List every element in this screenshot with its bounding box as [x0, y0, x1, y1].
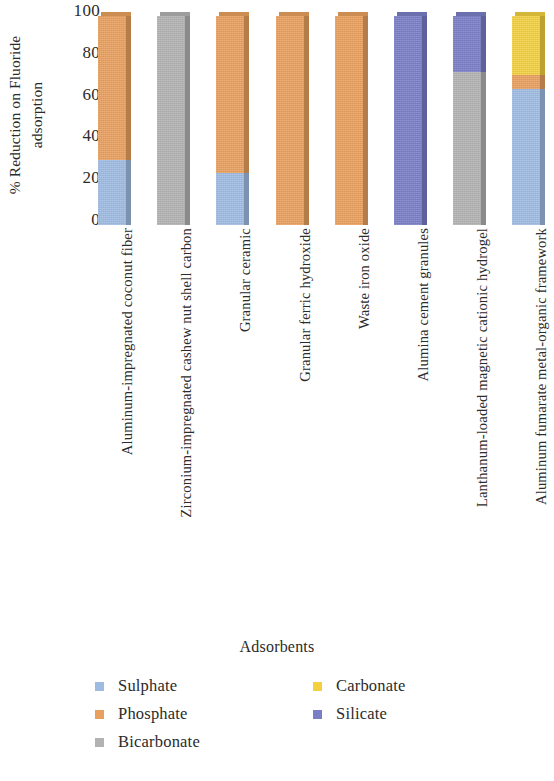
- legend-column-left: SulphatePhosphateBicarbonate: [95, 672, 200, 756]
- bar-segment-carbonate[interactable]: [512, 16, 540, 75]
- bar-segment-side-face: [244, 16, 249, 173]
- y-axis-title: % Reduction on Fluoride adsorption: [0, 0, 52, 230]
- bar-segment-side-face: [422, 16, 427, 225]
- bar-segment-phosphate[interactable]: [98, 16, 126, 160]
- bar-segment-side-face: [540, 89, 545, 225]
- bar-column[interactable]: [157, 16, 185, 225]
- y-axis-tick-20: 20: [60, 169, 100, 186]
- legend-item[interactable]: Carbonate: [313, 672, 406, 700]
- x-axis-category-label: Aluminum fumarate metal-organic framewor…: [534, 228, 549, 505]
- legend-label: Silicate: [336, 706, 387, 723]
- bar-segment-side-face: [185, 16, 190, 225]
- legend-swatch-phosphate: [95, 710, 104, 719]
- y-axis-title-line-2: adsorption: [26, 36, 48, 195]
- bar-segment-side-face: [481, 16, 486, 72]
- y-axis-tick-100: 100: [60, 2, 100, 19]
- x-axis-category-label: Granular ferric hydroxide: [298, 228, 313, 382]
- legend-item[interactable]: Phosphate: [95, 700, 200, 728]
- bar-column[interactable]: [216, 16, 244, 225]
- legend-label: Phosphate: [118, 706, 188, 723]
- bar-segment-side-face: [540, 75, 545, 90]
- bar-segment-phosphate[interactable]: [335, 16, 363, 225]
- x-axis-category-labels: Aluminum-impregnated coconut fiberZircon…: [52, 228, 554, 628]
- x-axis-category-label: Waste iron oxide: [357, 228, 372, 329]
- y-axis-tick-0: 0: [60, 211, 100, 228]
- y-axis-tick-80: 80: [60, 43, 100, 60]
- x-axis-category-label: Granular ceramic: [238, 228, 253, 332]
- plot-area: 020406080100: [52, 10, 554, 225]
- bar-segment-side-face: [304, 16, 309, 225]
- legend-swatch-silicate: [313, 710, 322, 719]
- bar-column[interactable]: [453, 16, 481, 225]
- x-axis-title: Adsorbents: [0, 638, 554, 656]
- x-axis-category-label: Alumina cement granules: [416, 228, 431, 381]
- chart-legend: SulphatePhosphateBicarbonate CarbonateSi…: [95, 672, 525, 777]
- bar-segment-side-face: [244, 173, 249, 225]
- bar-segment-side-face: [363, 16, 368, 225]
- bar-column[interactable]: [512, 16, 540, 225]
- legend-swatch-carbonate: [313, 682, 322, 691]
- bar-segment-side-face: [540, 16, 545, 75]
- y-axis-tick-60: 60: [60, 85, 100, 102]
- x-axis-category-label: Aluminum-impregnated coconut fiber: [120, 228, 135, 455]
- bar-segment-silicate[interactable]: [394, 16, 422, 225]
- bar-column[interactable]: [335, 16, 363, 225]
- x-axis-category-label: Zirconium-impregnated cashew nut shell c…: [179, 228, 194, 518]
- bar-column[interactable]: [394, 16, 422, 225]
- legend-label: Carbonate: [336, 678, 406, 695]
- y-axis-title-line-1: % Reduction on Fluoride: [4, 36, 26, 195]
- bar-segment-phosphate[interactable]: [512, 75, 540, 90]
- bar-segment-side-face: [481, 72, 486, 225]
- legend-label: Sulphate: [118, 678, 177, 695]
- legend-item[interactable]: Bicarbonate: [95, 728, 200, 756]
- bar-column[interactable]: [98, 16, 126, 225]
- bar-segment-bicarbonate[interactable]: [157, 16, 185, 225]
- bar-segment-side-face: [126, 16, 131, 160]
- legend-label: Bicarbonate: [118, 734, 200, 751]
- bar-segment-phosphate[interactable]: [276, 16, 304, 225]
- x-axis-category-label: Lanthanum-loaded magnetic cationic hydro…: [475, 228, 490, 507]
- bar-segment-sulphate[interactable]: [512, 89, 540, 225]
- bar-segment-sulphate[interactable]: [98, 160, 126, 225]
- bar-segment-phosphate[interactable]: [216, 16, 244, 173]
- bar-segment-side-face: [126, 160, 131, 225]
- legend-swatch-sulphate: [95, 682, 104, 691]
- legend-swatch-bicarbonate: [95, 738, 104, 747]
- legend-item[interactable]: Silicate: [313, 700, 406, 728]
- y-axis-tick-40: 40: [60, 127, 100, 144]
- bar-segment-bicarbonate[interactable]: [453, 72, 481, 225]
- legend-item[interactable]: Sulphate: [95, 672, 200, 700]
- bar-segment-silicate[interactable]: [453, 16, 481, 72]
- bar-segment-sulphate[interactable]: [216, 173, 244, 225]
- bar-column[interactable]: [276, 16, 304, 225]
- legend-column-right: CarbonateSilicate: [313, 672, 406, 728]
